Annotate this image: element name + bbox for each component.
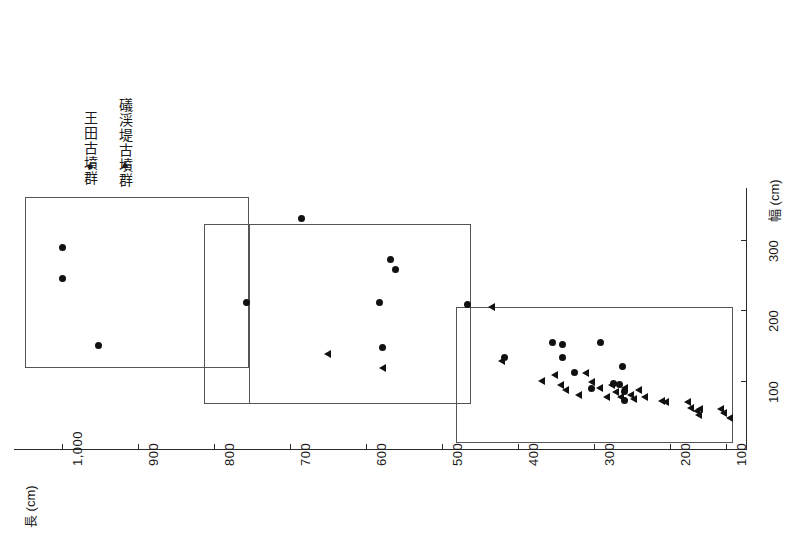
data-point-triangle [498, 357, 505, 365]
data-point-circle [387, 256, 394, 263]
x-tick-label: 200 [678, 443, 693, 466]
x-tick [138, 444, 139, 449]
x-axis-title: 長 (cm) [20, 485, 39, 528]
data-point-circle [376, 299, 383, 306]
y-tick-label: 300 [766, 240, 781, 262]
data-point-circle [559, 341, 566, 348]
data-point-triangle [324, 350, 331, 358]
x-tick-label: 100 [734, 443, 749, 466]
data-point-circle [59, 275, 66, 282]
x-tick [726, 444, 727, 449]
data-point-triangle [617, 393, 624, 401]
chart-canvas: ● 王田古墳群 ▲ 礒渓堤古墳群 1,000 900 800 700 600 5… [0, 0, 791, 533]
data-point-triangle [538, 377, 545, 385]
y-tick [741, 381, 746, 382]
data-point-circle [597, 339, 604, 346]
data-point-triangle [596, 384, 603, 392]
x-tick-label: 600 [374, 443, 389, 466]
legend: ● 王田古墳群 ▲ 礒渓堤古墳群 [34, 18, 144, 188]
x-tick [62, 444, 63, 449]
x-tick [442, 444, 443, 449]
data-point-circle [559, 354, 566, 361]
data-point-triangle [488, 303, 495, 311]
x-tick [594, 444, 595, 449]
x-tick [518, 444, 519, 449]
data-point-circle [243, 299, 250, 306]
y-tick-label: 200 [766, 310, 781, 332]
data-point-triangle [726, 414, 733, 422]
data-point-triangle [630, 395, 637, 403]
x-tick-label: 800 [222, 443, 237, 466]
data-point-triangle [551, 371, 558, 379]
data-point-triangle [696, 405, 703, 413]
x-tick-label: 1,000 [70, 431, 85, 466]
x-tick-label: 500 [450, 443, 465, 466]
y-axis-title: 幅 (cm) [764, 179, 783, 222]
group-rect-4 [456, 307, 733, 443]
x-tick [214, 444, 215, 449]
data-point-circle [549, 339, 556, 346]
y-tick [741, 310, 746, 311]
x-tick [366, 444, 367, 449]
data-point-circle [298, 215, 305, 222]
y-tick [741, 240, 746, 241]
group-rect-3 [204, 224, 471, 404]
data-point-circle [59, 244, 66, 251]
data-point-triangle [662, 398, 669, 406]
x-tick-label: 300 [602, 443, 617, 466]
legend-label-1: 礒渓堤古墳群 [115, 98, 135, 188]
data-point-triangle [588, 378, 595, 386]
data-point-triangle [582, 369, 589, 377]
y-axis-line [746, 188, 747, 450]
x-tick [290, 444, 291, 449]
x-tick-label: 900 [146, 443, 161, 466]
data-point-triangle [379, 364, 386, 372]
data-point-triangle [575, 391, 582, 399]
x-tick [670, 444, 671, 449]
data-point-triangle [641, 393, 648, 401]
data-point-triangle [562, 386, 569, 394]
legend-item-1: ▲ 礒渓堤古墳群 [80, 133, 170, 170]
y-tick-label: 100 [766, 381, 781, 403]
data-point-triangle [603, 393, 610, 401]
x-tick-label: 400 [526, 443, 541, 466]
x-tick-label: 700 [298, 443, 313, 466]
